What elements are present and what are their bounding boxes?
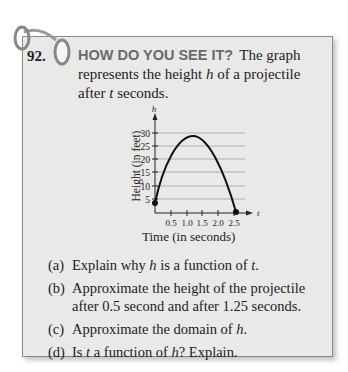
question-c: (c) Approximate the domain of h. — [48, 320, 328, 338]
svg-text:2.0: 2.0 — [212, 218, 224, 228]
svg-text:1.0: 1.0 — [181, 218, 193, 228]
question-a: (a) Explain why h is a function of t. — [48, 256, 328, 274]
svg-text:Height (in feet): Height (in feet) — [130, 130, 143, 201]
height-time-graph: 30 25 20 15 10 5 0.5 1.0 1.5 2.0 2.5 h t… — [100, 100, 270, 230]
question-b: (b) Approximate the height of the projec… — [48, 279, 328, 315]
question-d: (d) Is t a function of h? Explain. — [48, 343, 328, 361]
question-list: (a) Explain why h is a function of t. (b… — [48, 256, 328, 366]
section-heading: HOW DO YOU SEE IT? — [78, 47, 233, 63]
problem-number: 92. — [27, 48, 46, 65]
svg-text:t: t — [257, 208, 260, 218]
svg-text:1.5: 1.5 — [196, 218, 208, 228]
problem-prompt: HOW DO YOU SEE IT?The graph represents t… — [78, 46, 328, 103]
x-axis-label: Time (in seconds) — [142, 229, 235, 245]
svg-text:0.5: 0.5 — [165, 218, 177, 228]
svg-text:h: h — [152, 104, 157, 114]
svg-text:2.5: 2.5 — [228, 218, 240, 228]
svg-text:5: 5 — [145, 195, 150, 205]
